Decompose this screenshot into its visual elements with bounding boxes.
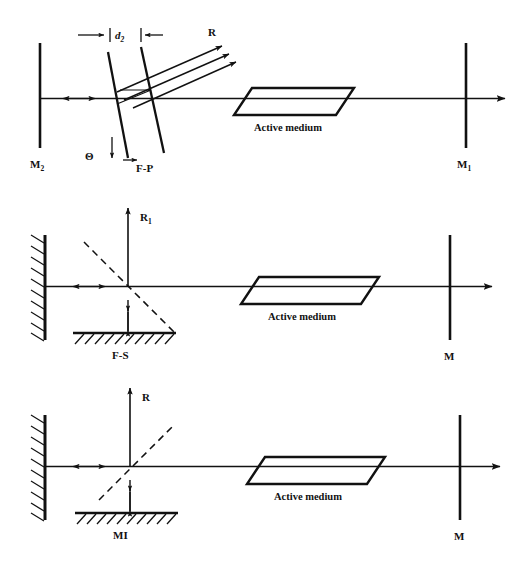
active-medium-label: Active medium <box>274 491 342 502</box>
right-mirror-label: M <box>444 350 455 362</box>
etalon-label: F-P <box>136 162 153 174</box>
output-ray-label: R <box>142 391 151 403</box>
optics-figure: d2 Θ Active medium M2 M1 F-P R <box>0 0 520 572</box>
active-medium-label: Active medium <box>268 311 336 322</box>
selector-label: F-S <box>112 349 129 361</box>
right-mirror-label: M <box>454 530 465 542</box>
selector-label: MI <box>113 529 128 541</box>
active-medium-label: Active medium <box>254 122 322 133</box>
output-ray-label: R <box>208 26 217 38</box>
tilt-angle-label: Θ <box>85 150 94 162</box>
